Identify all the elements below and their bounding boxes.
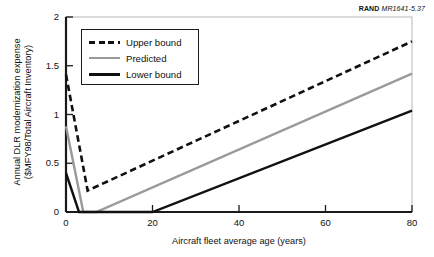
legend-label-predicted: Predicted xyxy=(126,53,167,64)
legend-label-upper-bound: Upper bound xyxy=(126,37,181,48)
figure-container: RAND MR1641-5.37 Annual DLR modernizatio… xyxy=(0,0,434,257)
legend-swatch-black-line-icon xyxy=(89,69,120,79)
y-tick-label: 1 xyxy=(31,110,59,120)
y-tick-label: 0 xyxy=(31,207,59,217)
x-tick-label: 40 xyxy=(224,218,254,228)
x-tick-label: 60 xyxy=(311,218,341,228)
x-tick-label: 20 xyxy=(138,218,168,228)
legend-item-upper-bound: Upper bound xyxy=(89,34,181,50)
legend-item-predicted: Predicted xyxy=(89,50,167,66)
legend-swatch-gray-line-icon xyxy=(89,53,120,63)
y-axis-title-line1: Annual DLR modernization expense xyxy=(12,12,23,212)
legend-label-lower-bound: Lower bound xyxy=(126,69,181,80)
y-tick-label: 1.5 xyxy=(31,61,59,71)
x-tick-label: 0 xyxy=(51,218,81,228)
legend-swatch-dashed-icon xyxy=(89,37,120,47)
x-tick-label: 80 xyxy=(397,218,427,228)
legend-item-lower-bound: Lower bound xyxy=(89,66,181,82)
y-tick-label: 2 xyxy=(31,12,59,22)
x-axis-title: Aircraft fleet average age (years) xyxy=(66,236,412,246)
y-tick-label: 0.5 xyxy=(31,158,59,168)
chart-legend: Upper bound Predicted Lower bound xyxy=(81,29,199,85)
